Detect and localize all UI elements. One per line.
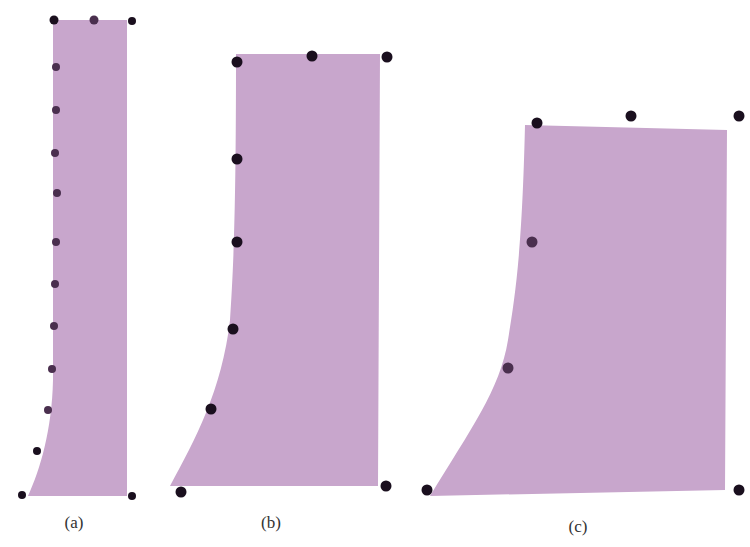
control-point — [527, 237, 538, 248]
control-point — [52, 63, 60, 71]
control-point — [48, 365, 56, 373]
control-point — [734, 111, 745, 122]
control-point — [52, 238, 60, 246]
control-point — [382, 52, 393, 63]
control-point — [52, 106, 60, 114]
control-point — [307, 51, 318, 62]
control-point — [33, 447, 41, 455]
control-point — [18, 491, 26, 499]
control-point — [232, 57, 243, 68]
control-point — [734, 485, 745, 496]
panel-label-b: (b) — [261, 513, 281, 532]
control-point — [51, 149, 59, 157]
control-point — [206, 404, 217, 415]
deformed-shape-a — [28, 20, 127, 496]
deformed-shape-c — [430, 125, 727, 496]
control-point — [232, 237, 243, 248]
control-point — [50, 16, 59, 25]
control-point — [232, 154, 243, 165]
deformed-shape-b — [170, 54, 380, 486]
panel-label-a: (a) — [65, 513, 84, 532]
control-point — [176, 487, 187, 498]
control-point — [503, 363, 514, 374]
control-point — [53, 189, 61, 197]
control-point — [422, 485, 433, 496]
control-point — [532, 118, 543, 129]
control-point — [50, 322, 58, 330]
figure-three-panels: (a) (b) (c) — [0, 0, 750, 547]
panel-a: (a) — [18, 16, 136, 533]
control-point — [44, 406, 52, 414]
panel-b: (b) — [170, 51, 393, 533]
control-point — [90, 16, 99, 25]
control-point — [228, 324, 239, 335]
control-point — [128, 492, 136, 500]
panel-c: (c) — [422, 111, 745, 537]
control-point — [51, 280, 59, 288]
panel-label-c: (c) — [569, 517, 588, 536]
control-point — [381, 481, 392, 492]
control-point — [626, 111, 637, 122]
control-point — [128, 17, 136, 25]
